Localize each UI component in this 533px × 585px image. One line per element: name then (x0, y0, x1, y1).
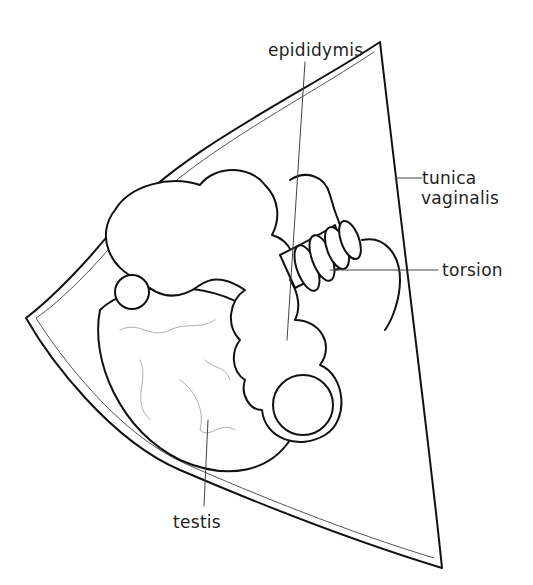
label-testis: testis (173, 512, 221, 532)
diagram-canvas: epididymis tunica vaginalis torsion test… (0, 0, 533, 585)
label-epididymis: epididymis (268, 40, 363, 60)
label-torsion: torsion (442, 260, 503, 280)
cord-strand-lower (362, 239, 400, 330)
label-vaginalis: vaginalis (421, 188, 499, 208)
epididymis-tail-globe (273, 375, 333, 435)
label-tunica: tunica (422, 168, 477, 188)
appendix-globe (115, 275, 149, 309)
diagram-drawing (0, 0, 533, 585)
